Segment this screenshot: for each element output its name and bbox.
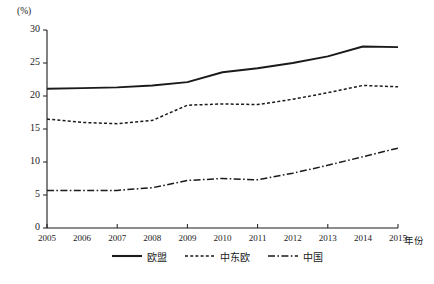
series-lines bbox=[47, 47, 398, 191]
line-chart bbox=[0, 0, 434, 246]
y-axis-ticks bbox=[43, 30, 47, 228]
x-axis-tick-label: 2014 bbox=[346, 233, 380, 243]
y-axis-tick-label: 25 bbox=[18, 56, 40, 67]
legend-label: 中东欧 bbox=[220, 249, 250, 264]
x-axis-tick-label: 2007 bbox=[100, 233, 134, 243]
legend-line-swatch bbox=[185, 251, 215, 261]
x-axis-tick-label: 2008 bbox=[135, 233, 169, 243]
y-axis-tick-label: 10 bbox=[18, 155, 40, 166]
legend-line-swatch bbox=[268, 251, 298, 261]
y-axis-tick-label: 15 bbox=[18, 122, 40, 133]
legend-label: 中国 bbox=[303, 249, 323, 264]
series-line bbox=[47, 47, 398, 89]
legend-item[interactable]: 中国 bbox=[268, 249, 323, 264]
y-axis-tick-label: 30 bbox=[18, 23, 40, 34]
legend-line-swatch bbox=[112, 251, 142, 261]
axis-lines bbox=[47, 30, 398, 228]
x-axis-tick-label: 2006 bbox=[65, 233, 99, 243]
series-line bbox=[47, 85, 398, 123]
x-axis-tick-label: 2005 bbox=[30, 233, 64, 243]
chart-legend: 欧盟中东欧中国 bbox=[0, 246, 434, 266]
y-axis-tick-label: 0 bbox=[18, 221, 40, 232]
x-axis-ticks bbox=[47, 224, 398, 228]
series-line bbox=[47, 148, 398, 190]
y-axis-tick-label: 5 bbox=[18, 188, 40, 199]
x-axis-tick-label: 2009 bbox=[170, 233, 204, 243]
x-axis-title: 年份 bbox=[404, 233, 424, 247]
figure: (%) 051015202530 20052006200720082009201… bbox=[0, 0, 434, 284]
legend-label: 欧盟 bbox=[147, 249, 167, 264]
legend-item[interactable]: 欧盟 bbox=[112, 249, 167, 264]
x-axis-tick-label: 2012 bbox=[276, 233, 310, 243]
x-axis-tick-label: 2013 bbox=[311, 233, 345, 243]
legend-item[interactable]: 中东欧 bbox=[185, 249, 250, 264]
x-axis-tick-label: 2011 bbox=[241, 233, 275, 243]
y-axis-tick-label: 20 bbox=[18, 89, 40, 100]
x-axis-tick-label: 2010 bbox=[206, 233, 240, 243]
